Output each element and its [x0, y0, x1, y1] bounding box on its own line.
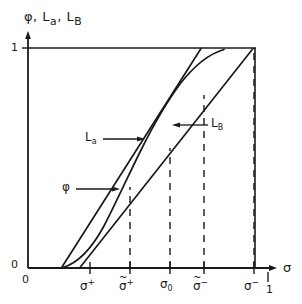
x-tick-label-sigma-minus-sup: −: [252, 277, 260, 287]
tilde-accent-icon-2: ~: [193, 273, 201, 283]
x-tick-label-sigma-zero: σ0: [160, 278, 173, 293]
x-tick-label-one: 1: [266, 284, 273, 295]
x-tick-label-sigma-tilde-plus-sup: +: [127, 277, 135, 287]
y-axis-title: φ, La, LB: [24, 10, 82, 27]
x-tick-label-sigma-minus-base: σ: [244, 279, 252, 293]
y-axis-title-comma-2: ,: [57, 9, 62, 24]
x-tick-label-sigma-tilde-minus: ~σ −: [193, 278, 208, 292]
x-tick-label-sigma-plus-sup: +: [88, 277, 96, 287]
curve-label-phi: φ: [62, 181, 70, 193]
annotation-arrow-LB: [172, 122, 208, 127]
y-tick-label-zero: 0: [11, 259, 18, 270]
curve-LB: [80, 49, 253, 268]
y-axis-title-phi: φ: [24, 9, 33, 24]
y-axis-title-LB-sub: B: [74, 15, 82, 28]
curve-label-La: La: [85, 131, 97, 146]
x-tick-label-sigma-tilde-plus-base-wrap: ~σ: [119, 280, 127, 292]
y-axis-title-LB: LB: [67, 9, 83, 24]
curve-label-La-sub: a: [92, 137, 97, 146]
y-axis-title-La-base: L: [42, 9, 50, 24]
curve-phi: [63, 50, 224, 268]
x-tick-label-sigma-tilde-minus-sup: −: [201, 277, 209, 287]
curve-La: [62, 49, 201, 268]
y-axis-title-La: La: [42, 9, 57, 24]
x-tick-label-sigma-minus: σ−: [244, 278, 259, 292]
x-axis-title: σ: [283, 261, 292, 274]
curve-label-LB-sub: B: [218, 123, 224, 132]
figure-canvas: [0, 0, 302, 304]
curve-label-LB: LB: [211, 117, 223, 132]
x-tick-label-sigma-plus-base: σ: [80, 279, 88, 293]
curve-label-La-base: L: [85, 130, 92, 144]
x-tick-label-sigma-plus: σ+: [80, 278, 95, 292]
tilde-accent-icon-1: ~: [119, 273, 127, 283]
x-tick-label-zero: 0: [22, 274, 29, 285]
annotation-arrow-La: [103, 136, 145, 141]
x-axis-arrow-icon: [269, 265, 277, 271]
y-axis-title-comma-1: ,: [33, 9, 38, 24]
curve-label-LB-base: L: [211, 116, 218, 130]
annotation-arrow-phi: [76, 186, 120, 191]
x-tick-label-sigma-zero-sub: 0: [168, 284, 173, 293]
x-tick-label-sigma-tilde-minus-base-wrap: ~σ: [193, 280, 201, 292]
x-tick-label-sigma-zero-base: σ: [160, 277, 168, 291]
y-tick-label-one: 1: [11, 42, 18, 53]
x-tick-label-sigma-tilde-plus: ~σ +: [119, 278, 134, 292]
y-axis-arrow-icon: [25, 31, 31, 39]
